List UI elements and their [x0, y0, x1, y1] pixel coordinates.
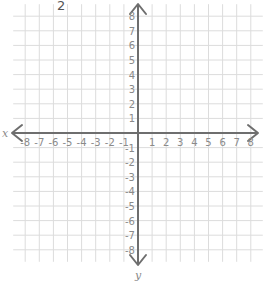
coordinate-plane: -8-7-6-5-4-3-2-112345678 87654321-1-2-3-…: [0, 0, 264, 284]
y-tick-label: -1: [125, 143, 135, 154]
y-axis-label: y: [134, 269, 142, 282]
y-tick-label: 7: [129, 26, 135, 37]
y-tick-label: 8: [129, 11, 135, 22]
x-tick-label: 8: [248, 137, 254, 148]
y-tick-label: 5: [129, 55, 135, 66]
x-tick-label: -3: [91, 137, 101, 148]
y-tick-label: -3: [125, 172, 135, 183]
x-tick-label: 4: [191, 137, 197, 148]
x-tick-label: 2: [163, 137, 169, 148]
x-tick-label: -5: [63, 137, 73, 148]
y-tick-label: -6: [125, 216, 135, 227]
x-tick-label: 6: [219, 137, 225, 148]
y-tick-label: -5: [125, 201, 135, 212]
y-tick-label: -7: [125, 230, 135, 241]
x-tick-label: -8: [20, 137, 30, 148]
x-tick-label: -2: [105, 137, 115, 148]
y-tick-label: 6: [129, 40, 135, 51]
x-tick-label: -7: [34, 137, 44, 148]
y-tick-label: 3: [129, 84, 135, 95]
problem-number: 2: [57, 0, 65, 13]
y-tick-label: -4: [125, 186, 135, 197]
x-axis-label: x: [2, 127, 9, 140]
y-tick-label: -2: [125, 157, 135, 168]
y-tick-label: -8: [125, 245, 135, 256]
x-tick-label: 5: [205, 137, 211, 148]
x-tick-label: -6: [48, 137, 58, 148]
y-tick-label: 4: [129, 70, 135, 81]
x-tick-label: -4: [77, 137, 87, 148]
y-tick-label: 2: [129, 99, 135, 110]
x-tick-label: 1: [149, 137, 155, 148]
x-tick-label: 3: [177, 137, 183, 148]
axes: [12, 4, 258, 265]
y-tick-label: 1: [129, 113, 135, 124]
x-tick-label: 7: [234, 137, 240, 148]
